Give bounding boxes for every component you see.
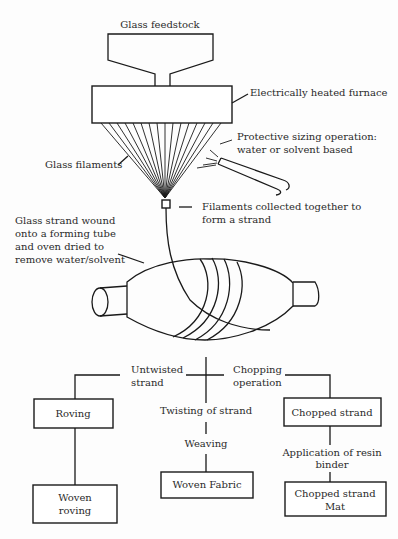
wound-label-2: onto a forming tube [15, 228, 116, 239]
sizing-label-2: water or solvent based [237, 144, 353, 155]
feedstock-hopper [108, 34, 213, 86]
chopped-strand-label: Chopped strand [291, 407, 373, 418]
furnace-box [92, 86, 232, 123]
woven-fabric-label: Woven Fabric [172, 479, 241, 490]
resin-label-1: Application of resin [281, 447, 382, 458]
twisting-label: Twisting of strand [160, 405, 253, 416]
wound-label-1: Glass strand wound [15, 215, 116, 226]
furnace-leader [232, 94, 248, 103]
untwisted-label-1: Untwisted [131, 364, 184, 375]
untwisted-label-2: strand [131, 377, 164, 388]
csm-label-1: Chopped strand [294, 488, 376, 499]
collected-label-2: form a strand [202, 214, 272, 225]
sizing-label-1: Protective sizing operation: [237, 131, 377, 142]
forming-tube-package [92, 258, 319, 340]
chopping-label-1: Chopping [233, 364, 283, 375]
woven-roving-box [33, 485, 117, 523]
chopping-label-2: operation [233, 377, 282, 388]
filaments-label: Glass filaments [45, 159, 122, 170]
woven-roving-label-2: roving [59, 505, 92, 516]
weaving-label: Weaving [184, 438, 228, 449]
strand-path [166, 208, 270, 330]
collected-label-1: Filaments collected together to [202, 201, 361, 212]
csm-label-2: Mat [325, 501, 345, 512]
collector-shoe [162, 200, 170, 208]
woven-roving-label-1: Woven [58, 492, 92, 503]
right-branch-line [285, 375, 330, 399]
feedstock-label: Glass feedstock [120, 19, 200, 30]
roving-label: Roving [55, 408, 91, 419]
glass-fibre-process-diagram: Glass feedstock Electrically heated furn… [0, 0, 398, 539]
left-branch-line [75, 375, 120, 400]
wound-label-3: and oven dried to [15, 241, 104, 252]
resin-label-2: binder [315, 459, 348, 470]
wound-label-4: remove water/solvent [15, 254, 125, 265]
furnace-label: Electrically heated furnace [250, 87, 388, 98]
